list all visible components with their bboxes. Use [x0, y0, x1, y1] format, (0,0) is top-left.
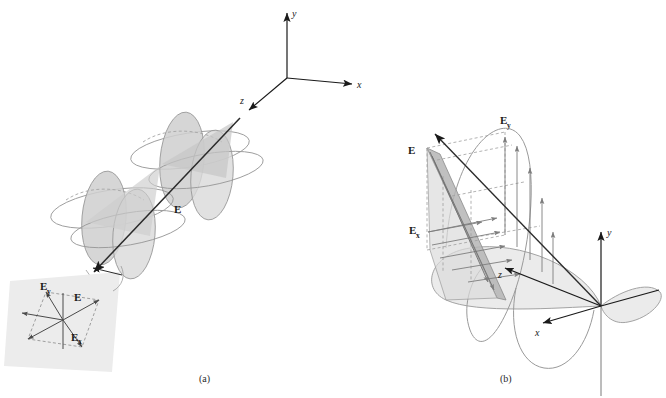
- inset-e-label: E: [74, 291, 81, 303]
- svg-text:y: y: [47, 287, 51, 296]
- panel-b-caption: (b): [500, 373, 512, 385]
- panel-b-ex-label: E x: [409, 224, 420, 240]
- panel-a-z-axis: [249, 78, 287, 110]
- panel-a-axes: y x z: [239, 8, 362, 110]
- figure-canvas: y x z E: [0, 0, 666, 398]
- panel-a-x-axis: [287, 78, 352, 84]
- svg-text:x: x: [416, 231, 420, 240]
- panel-b-ey-label: E y: [500, 114, 511, 130]
- panel-a-z-axis-label: z: [239, 95, 244, 106]
- panel-a-inset: E y E E x: [4, 266, 123, 372]
- svg-text:y: y: [507, 121, 511, 130]
- panel-a-caption: (a): [199, 373, 210, 385]
- inset-backing-plane: [4, 272, 120, 372]
- panel-a-field-label: E: [174, 203, 181, 215]
- panel-b-e-label: E: [408, 144, 415, 156]
- polarization-figure: y x z E: [0, 0, 666, 398]
- svg-text:x: x: [78, 337, 82, 346]
- panel-a-y-axis-label: y: [291, 8, 297, 19]
- panel-b-z-axis-label: z: [497, 269, 502, 280]
- panel-b-y-axis-label: y: [606, 227, 612, 238]
- panel-b: y x z E y E E x (b): [408, 114, 661, 396]
- panel-a-x-axis-label: x: [356, 79, 362, 90]
- panel-b-x-axis-label: x: [534, 327, 540, 338]
- panel-a: y x z E: [4, 8, 362, 385]
